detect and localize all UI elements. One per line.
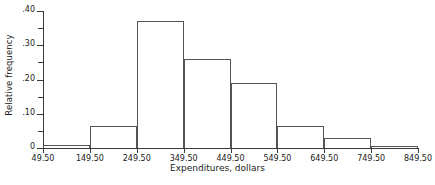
x-tick-label: 49.50 <box>32 154 55 163</box>
y-tick-label: .10 <box>22 108 35 117</box>
y-tick: .10 <box>37 114 43 115</box>
y-tick <box>38 28 43 29</box>
y-tick: .20 <box>37 80 43 81</box>
y-tick-label: 0 <box>30 142 35 151</box>
x-tick-label: 449.50 <box>217 154 245 163</box>
histogram-figure: Relative frequency .40.30.20.100 49.5014… <box>0 0 435 185</box>
y-axis-line <box>43 11 44 148</box>
x-tick <box>324 148 325 153</box>
y-axis-title-text: Relative frequency <box>4 34 14 115</box>
histogram-bar <box>137 21 184 148</box>
x-tick <box>371 148 372 153</box>
y-tick <box>38 97 43 98</box>
x-tick <box>137 148 138 153</box>
plot-area: .40.30.20.100 49.50149.50249.50349.50449… <box>43 11 418 148</box>
x-tick <box>418 148 419 153</box>
y-tick: .40 <box>37 11 43 12</box>
x-tick-label: 849.50 <box>404 154 432 163</box>
histogram-bar <box>43 145 90 148</box>
histogram-bar <box>371 146 418 148</box>
y-tick <box>38 62 43 63</box>
x-tick-label: 349.50 <box>170 154 198 163</box>
y-tick <box>38 131 43 132</box>
histogram-bar <box>277 126 324 148</box>
y-tick-label: .40 <box>22 5 35 14</box>
y-tick-label: .20 <box>22 74 35 83</box>
x-tick-label: 249.50 <box>123 154 151 163</box>
x-axis-title: Expenditures, dollars <box>0 163 435 173</box>
x-tick-label: 149.50 <box>76 154 104 163</box>
x-tick <box>231 148 232 153</box>
histogram-bar <box>184 59 231 148</box>
x-tick-label: 749.50 <box>357 154 385 163</box>
histogram-bar <box>231 83 278 148</box>
histogram-bar <box>324 138 371 148</box>
y-tick: .30 <box>37 45 43 46</box>
x-tick <box>90 148 91 153</box>
y-axis-title: Relative frequency <box>0 0 18 150</box>
x-tick <box>43 148 44 153</box>
x-tick-label: 549.50 <box>263 154 291 163</box>
histogram-bar <box>90 126 137 148</box>
y-tick-label: .30 <box>22 39 35 48</box>
x-tick-label: 649.50 <box>310 154 338 163</box>
x-tick <box>277 148 278 153</box>
x-tick <box>184 148 185 153</box>
